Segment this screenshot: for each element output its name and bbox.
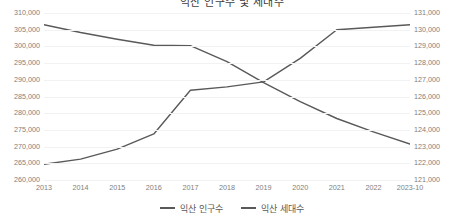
y-axis-right-tick: 122,000 [414, 159, 440, 166]
y-axis-left-tick: 305,000 [14, 26, 40, 33]
legend-line-icon [241, 207, 256, 209]
y-axis-left-tick: 270,000 [14, 143, 40, 150]
legend-item-households[interactable]: 익산 세대수 [241, 202, 304, 215]
gridline [44, 163, 410, 164]
x-axis-tick: 2021 [329, 184, 345, 191]
legend-line-icon [160, 207, 175, 209]
x-axis-tick: 2017 [182, 184, 198, 191]
gridline [44, 113, 410, 114]
y-axis-left-tick: 310,000 [14, 9, 40, 16]
gridline [44, 97, 410, 98]
y-axis-right-tick: 128,000 [414, 59, 440, 66]
x-axis-tick: 2016 [146, 184, 162, 191]
y-axis-right-tick: 130,000 [414, 26, 440, 33]
x-axis-tick: 2022 [365, 184, 381, 191]
gridline [44, 130, 410, 131]
x-axis: 2013201420152016201720182019202020212022… [44, 184, 410, 196]
legend-label: 익산 인구수 [180, 202, 223, 215]
plot-area [44, 13, 410, 181]
y-axis-right-tick: 129,000 [414, 42, 440, 49]
gridline [44, 63, 410, 64]
gridline [44, 13, 410, 14]
x-axis-tick: 2014 [73, 184, 89, 191]
y-axis-right-tick: 124,000 [414, 126, 440, 133]
legend-item-population[interactable]: 익산 인구수 [160, 202, 223, 215]
x-axis-tick: 2020 [292, 184, 308, 191]
legend-label: 익산 세대수 [261, 202, 304, 215]
x-axis-tick: 2013 [36, 184, 52, 191]
gridline [44, 30, 410, 31]
gridline [44, 147, 410, 148]
y-axis-left-tick: 275,000 [14, 126, 40, 133]
y-axis-right-tick: 131,000 [414, 9, 440, 16]
x-axis-tick: 2023-10 [397, 184, 423, 191]
y-axis-left-tick: 265,000 [14, 159, 40, 166]
x-axis-tick: 2018 [219, 184, 235, 191]
y-axis-right: 131,000130,000129,000128,000127,000126,0… [414, 13, 464, 181]
line-chart: 익산 인구수 및 세대수 310,000305,000300,000295,00… [0, 0, 464, 218]
y-axis-right-tick: 123,000 [414, 143, 440, 150]
x-axis-tick: 2019 [256, 184, 272, 191]
y-axis-left-tick: 300,000 [14, 42, 40, 49]
x-axis-tick: 2015 [109, 184, 125, 191]
series-line [44, 25, 410, 144]
y-axis-left: 310,000305,000300,000295,000290,000285,0… [0, 13, 40, 181]
y-axis-right-tick: 126,000 [414, 93, 440, 100]
chart-legend: 익산 인구수 익산 세대수 [0, 200, 464, 216]
y-axis-left-tick: 280,000 [14, 109, 40, 116]
y-axis-left-tick: 290,000 [14, 76, 40, 83]
gridline [44, 180, 410, 181]
gridline [44, 46, 410, 47]
gridline [44, 80, 410, 81]
y-axis-left-tick: 285,000 [14, 93, 40, 100]
y-axis-right-tick: 127,000 [414, 76, 440, 83]
chart-title: 익산 인구수 및 세대수 [0, 0, 464, 9]
y-axis-left-tick: 295,000 [14, 59, 40, 66]
y-axis-right-tick: 125,000 [414, 109, 440, 116]
